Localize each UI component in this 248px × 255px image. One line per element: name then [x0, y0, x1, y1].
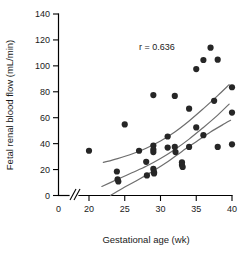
data-point [172, 149, 178, 155]
data-point [115, 178, 121, 184]
data-point [229, 141, 235, 147]
y-axis-group: 020406080100120140 [35, 9, 59, 201]
y-axis-ticks [53, 14, 59, 196]
data-point [180, 164, 186, 170]
y-tick-label-80: 80 [40, 87, 50, 97]
y-axis-title: Fetal renal blood flow (mL/min) [4, 40, 15, 170]
data-point [193, 124, 199, 130]
data-point [211, 98, 217, 104]
y-tick-label-140: 140 [35, 9, 50, 19]
data-point [215, 57, 221, 63]
x-tick-label-20: 20 [84, 204, 94, 214]
data-point [136, 148, 142, 154]
x-axis-tick-labels: 02025303540 [56, 204, 237, 214]
data-point [186, 144, 192, 150]
x-tick-label-0: 0 [56, 204, 61, 214]
y-axis-tick-labels: 020406080100120140 [35, 9, 50, 201]
regression-line [102, 104, 229, 186]
data-point [150, 92, 156, 98]
data-point [200, 132, 206, 138]
scatter-plot: 020406080100120140 02025303540 r = 0.636… [0, 0, 248, 255]
x-tick-label-30: 30 [155, 204, 165, 214]
data-point [172, 144, 178, 150]
lower-confidence-band [110, 120, 230, 195]
y-tick-label-100: 100 [35, 61, 50, 71]
y-tick-label-120: 120 [35, 35, 50, 45]
data-point [165, 133, 171, 139]
data-point [207, 45, 213, 51]
x-axis-group: 02025303540 [56, 189, 237, 214]
data-point [143, 159, 149, 165]
data-point [215, 144, 221, 150]
x-tick-label-40: 40 [227, 204, 237, 214]
data-point [186, 106, 192, 112]
x-tick-label-25: 25 [120, 204, 130, 214]
correlation-annotation: r = 0.636 [139, 42, 175, 52]
axis-break-icon [70, 189, 80, 200]
data-point [229, 109, 235, 115]
data-point [86, 148, 92, 154]
y-tick-label-20: 20 [40, 165, 50, 175]
x-axis-ticks [89, 196, 232, 202]
data-point [151, 170, 157, 176]
data-point [200, 57, 206, 63]
y-tick-label-0: 0 [45, 191, 50, 201]
chart-figure: 020406080100120140 02025303540 r = 0.636… [0, 0, 248, 255]
data-points-group [86, 45, 235, 185]
data-point [122, 121, 128, 127]
data-point [144, 172, 150, 178]
y-tick-label-60: 60 [40, 113, 50, 123]
x-tick-label-35: 35 [191, 204, 201, 214]
data-point [165, 144, 171, 150]
x-axis-title: Gestational age (wk) [102, 234, 189, 245]
y-tick-label-40: 40 [40, 139, 50, 149]
data-point [114, 168, 120, 174]
data-point [150, 149, 156, 155]
data-point [193, 66, 199, 72]
data-point [229, 84, 235, 90]
data-point [172, 93, 178, 99]
